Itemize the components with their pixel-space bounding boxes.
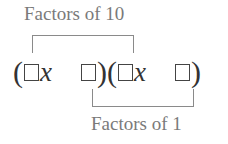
variable-x-1: x — [40, 56, 52, 88]
factors-of-1-label: Factors of 1 — [91, 113, 182, 135]
first-constant-box — [81, 64, 96, 81]
first-coefficient-box — [24, 64, 39, 81]
open-paren-2: ( — [107, 56, 117, 88]
close-paren-2: ) — [191, 56, 201, 88]
factored-expression: ( x ) ( x ) — [13, 56, 201, 88]
factors-of-10-label: Factors of 10 — [24, 3, 124, 25]
second-constant-box — [175, 64, 190, 81]
variable-x-2: x — [134, 56, 146, 88]
close-paren-1: ) — [97, 56, 107, 88]
third-coefficient-box — [118, 64, 133, 81]
constant-bracket — [92, 89, 194, 107]
coefficient-bracket — [32, 35, 134, 53]
open-paren-1: ( — [13, 56, 23, 88]
